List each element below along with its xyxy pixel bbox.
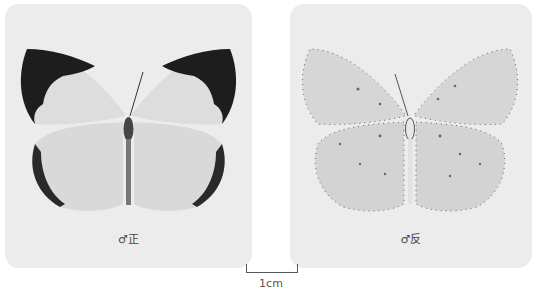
- specimen-panel-upperside: ♂正: [5, 4, 252, 268]
- butterfly-underside-image: [290, 4, 532, 268]
- specimen-panel-underside: ♂反: [290, 4, 532, 268]
- butterfly-upperside-image: [5, 4, 252, 268]
- caption-underside: ♂反: [290, 230, 532, 246]
- scale-bar-label: 1cm: [246, 277, 296, 290]
- scale-bar: [246, 264, 298, 273]
- caption-upperside: ♂正: [5, 230, 252, 246]
